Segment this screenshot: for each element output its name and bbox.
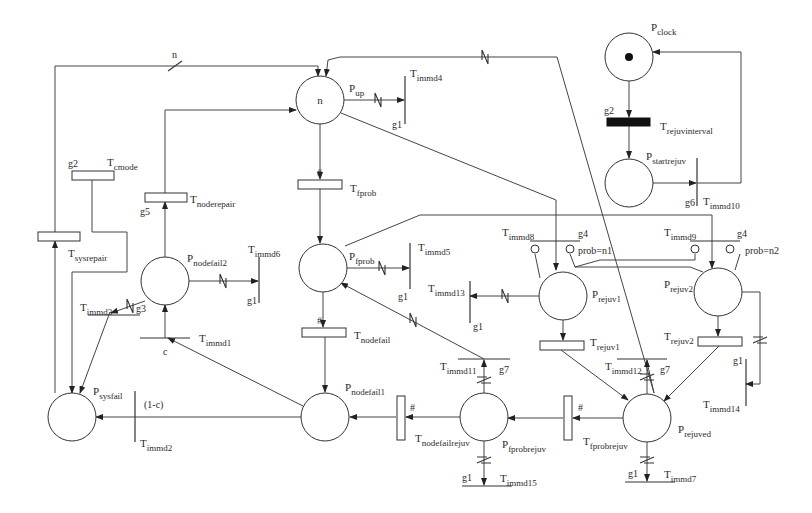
guard-label: g4 (578, 228, 588, 239)
transition-tnodefail: Tnodefail# (302, 315, 391, 345)
transition-label: Timmd11 (440, 360, 476, 376)
place-pclock: Pclock (605, 21, 677, 81)
place-label: Pup (349, 82, 365, 98)
place-label: Prejuv1 (592, 288, 621, 304)
transition-label: Tfprobrejuv (583, 435, 628, 451)
place-label: Pfprobrejuv (502, 438, 547, 454)
transition-timmd6: Timmd6g1 (247, 243, 281, 306)
guard-label: g1 (628, 468, 638, 479)
arc (55, 66, 318, 232)
timed-transition-box (698, 337, 742, 346)
transition-label: Trejuv1 (590, 336, 620, 352)
petri-net-diagram: nPupPclockPstartrejuvPnodefail2PfprobPre… (0, 0, 812, 513)
marking-dependent-mark: # (317, 315, 322, 326)
arc (168, 338, 303, 406)
transition-tfprob: Tfprob# (298, 167, 377, 198)
place-label: Prejuv2 (664, 278, 693, 294)
transition-tcmode: Tcmodeg2 (68, 156, 138, 180)
arc (80, 312, 110, 393)
guard-label: g3 (136, 303, 146, 314)
guard-label: g1 (473, 321, 483, 332)
guard-label: g5 (140, 206, 150, 217)
transition-timmd8: Timmd8g4 (502, 226, 588, 242)
timed-transition-box (145, 193, 187, 202)
transition-timmd13: Timmd13g1 (428, 281, 483, 332)
arc (664, 346, 719, 401)
transition-label: Timmd2 (140, 437, 172, 453)
annotation-label: prob=n2 (745, 245, 779, 256)
transition-trejuv2: Trejuv2 (664, 330, 742, 346)
transition-tfprobrejuv: Tfprobrejuv# (564, 396, 628, 451)
place-circle (623, 394, 671, 442)
transition-timmd1: Timmd1c (140, 332, 231, 357)
guard-label: g6 (685, 197, 695, 208)
guard-label: g2 (68, 158, 78, 169)
transition-tnodefailrejuv: Tnodefailrejuv# (397, 396, 470, 448)
transition-label: Timmd14 (703, 398, 740, 414)
token-count: n (317, 94, 323, 106)
transition-label: Timmd10 (703, 195, 740, 211)
places-layer: nPupPclockPstartrejuvPnodefail2PfprobPre… (48, 21, 742, 454)
transition-label: Trejuv2 (664, 330, 694, 346)
arc (535, 254, 540, 278)
transition-label: Tnodefail (354, 329, 391, 345)
place-circle (694, 268, 742, 316)
place-psysfail: Psysfail (48, 385, 123, 441)
transition-timmd12: Timmd12g7 (605, 359, 670, 376)
place-circle (301, 393, 349, 441)
place-circle (460, 393, 508, 441)
arc (742, 292, 760, 384)
transition-timmd10: Timmd10g6 (685, 158, 740, 211)
place-label: Pnodefail2 (187, 252, 227, 268)
transition-label: Tcmode (107, 156, 138, 172)
transition-timmd15: Timmd15g1 (462, 472, 537, 488)
place-pnodefail1: Pnodefail1 (301, 381, 385, 441)
timed-transition-box (38, 232, 80, 241)
guard-label: g7 (660, 364, 670, 375)
timed-transition-box (397, 396, 405, 440)
transition-timmd9: Timmd9g4 (664, 226, 747, 242)
transition-timmd11: Timmd11g7 (440, 359, 510, 376)
deterministic-transitions-layer: Trejuvintervalg2 (604, 105, 713, 136)
transition-label: Timmd13 (428, 282, 465, 298)
transition-trejuvinterval: Trejuvintervalg2 (604, 105, 713, 136)
transition-label: Timmd8 (502, 226, 535, 242)
arc (647, 362, 654, 393)
place-label: Prejuved (678, 423, 712, 439)
arc (735, 254, 740, 270)
transition-label: Timmd1 (199, 332, 231, 348)
timed-transition-box (72, 171, 114, 180)
probability-label: c (163, 346, 168, 357)
transition-timmd14: Timmd14g1 (703, 355, 746, 414)
place-prejuv2: Prejuv2 (664, 268, 742, 316)
inhibitor-arc-circle-icon (566, 245, 574, 253)
arc (72, 180, 127, 393)
transition-label: Tfprob (350, 182, 377, 198)
transition-label: Timmd12 (605, 360, 642, 376)
guard-label: g1 (733, 355, 743, 366)
place-circle (539, 272, 587, 320)
marking-dependent-mark: # (317, 167, 322, 178)
deterministic-transition-box (607, 118, 650, 126)
place-label: Pstartrejuv (646, 150, 687, 166)
annotation-label: n (172, 49, 177, 60)
timed-transition-box (302, 328, 346, 337)
place-circle (299, 244, 347, 292)
timed-transition-box (564, 396, 572, 440)
guard-label: g2 (604, 105, 614, 116)
place-label: Pclock (651, 21, 677, 37)
transition-timmd3: Timmd3g3 (80, 301, 146, 317)
probability-label: (1-c) (144, 399, 163, 411)
place-pstartrejuv: Pstartrejuv (605, 150, 687, 207)
transition-label: Tnodefailrejuv (415, 432, 470, 448)
place-circle (48, 393, 96, 441)
inhibitor-arc-circle-icon (726, 245, 734, 253)
transition-label: Timmd9 (664, 226, 697, 242)
token-dot-icon (625, 53, 633, 61)
transition-timmd7: Timmd7g1 (625, 468, 697, 484)
transition-trejuv1: Trejuv1 (540, 336, 620, 352)
transition-tsysrepair: Tsysrepair (38, 232, 107, 263)
timed-transition-box (540, 341, 584, 350)
transition-label: Trejuvinterval (660, 120, 713, 136)
inhibitor-arc-circle-icon (691, 245, 699, 253)
